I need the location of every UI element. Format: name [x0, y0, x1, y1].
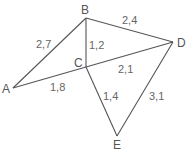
weight-c-d: 2,1: [118, 63, 133, 75]
vertex-label-e: E: [113, 138, 121, 151]
vertex-label-a: A: [2, 82, 10, 96]
weight-a-b: 2,7: [36, 38, 51, 50]
vertex-label-d: D: [177, 36, 186, 50]
vertex-label-c: C: [74, 56, 83, 70]
weight-d-e: 3,1: [149, 90, 164, 102]
vertex-label-b: B: [81, 3, 89, 17]
weight-a-c: 1,8: [50, 81, 65, 93]
graph-diagram: B A C D E 2,7 2,4 1,2 1,8 2,1 1,4 3,1: [0, 0, 190, 151]
weight-b-d: 2,4: [122, 14, 137, 26]
weight-c-e: 1,4: [103, 90, 118, 102]
weight-b-c: 1,2: [89, 39, 104, 51]
